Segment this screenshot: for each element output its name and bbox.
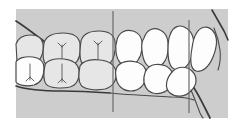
tooth-upper-canine xyxy=(142,29,169,68)
dental-illustration-svg xyxy=(0,0,244,124)
tooth-lower-first-premolar xyxy=(116,61,147,91)
tooth-lower-second-premolar xyxy=(79,60,116,90)
dental-occlusion-figure: Lateral buccal view of dental occlusion xyxy=(0,0,244,124)
